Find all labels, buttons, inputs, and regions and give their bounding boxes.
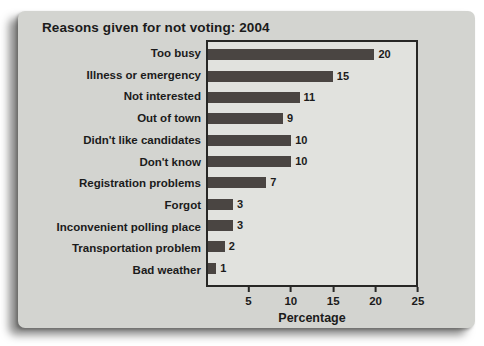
bar-value-label: 7: [270, 177, 276, 188]
bar-value-label: 10: [295, 135, 307, 146]
bar-value-label: 3: [237, 220, 243, 231]
bar-row: 10: [208, 151, 416, 172]
x-axis-title: Percentage: [206, 311, 418, 325]
x-axis-tick: 15: [327, 287, 340, 307]
bar: [208, 241, 225, 252]
bar-value-label: 9: [287, 113, 293, 124]
tick-label: 20: [369, 295, 382, 307]
category-label: Too busy: [18, 42, 201, 64]
category-label: Not interested: [18, 85, 201, 107]
category-labels: Too busyIllness or emergencyNot interest…: [18, 40, 201, 287]
tick-label: 25: [412, 295, 425, 307]
category-label: Don't know: [18, 151, 201, 173]
page-background: Reasons given for not voting: 2004 Too b…: [0, 0, 484, 346]
x-axis-tick: 10: [284, 287, 297, 307]
x-axis-tick: 25: [412, 287, 425, 307]
bar-value-label: 15: [337, 71, 349, 82]
chart-title: Reasons given for not voting: 2004: [42, 20, 270, 35]
category-label: Bad weather: [18, 259, 201, 281]
tick-mark: [332, 287, 334, 292]
tick-mark: [375, 287, 377, 292]
category-label: Out of town: [18, 107, 201, 129]
chart-card: Reasons given for not voting: 2004 Too b…: [18, 11, 475, 328]
bar-value-label: 2: [229, 241, 235, 252]
bar-value-label: 10: [295, 156, 307, 167]
bar-row: 7: [208, 172, 416, 193]
bar-value-label: 11: [304, 92, 316, 103]
bar-value-label: 1: [220, 263, 226, 274]
tick-label: 5: [245, 295, 251, 307]
bar-row: 20: [208, 44, 416, 65]
tick-mark: [417, 287, 419, 292]
bar: [208, 263, 216, 274]
bar-rows: 2015119101073321: [208, 42, 416, 285]
tick-mark: [247, 287, 249, 292]
category-label: Didn't like candidates: [18, 129, 201, 151]
bar: [208, 92, 300, 103]
category-label: Illness or emergency: [18, 64, 201, 86]
bar-row: 3: [208, 215, 416, 236]
bar: [208, 156, 291, 167]
bar-row: 11: [208, 87, 416, 108]
tick-mark: [290, 287, 292, 292]
x-axis-tick: 20: [369, 287, 382, 307]
category-label: Transportation problem: [18, 238, 201, 260]
bar-row: 1: [208, 258, 416, 279]
bar: [208, 71, 333, 82]
category-label: Forgot: [18, 194, 201, 216]
category-label: Registration problems: [18, 172, 201, 194]
bar-row: 15: [208, 65, 416, 86]
bar: [208, 49, 374, 60]
bar-value-label: 20: [378, 49, 390, 60]
bar: [208, 199, 233, 210]
bar-row: 9: [208, 108, 416, 129]
bar: [208, 113, 283, 124]
bar-value-label: 3: [237, 199, 243, 210]
bar-row: 3: [208, 194, 416, 215]
x-axis-tick: 5: [245, 287, 251, 307]
bar: [208, 135, 291, 146]
bar: [208, 220, 233, 231]
tick-label: 10: [284, 295, 297, 307]
category-label: Inconvenient polling place: [18, 216, 201, 238]
tick-label: 15: [327, 295, 340, 307]
bar-row: 2: [208, 236, 416, 257]
bar: [208, 177, 266, 188]
plot-area: 2015119101073321: [206, 40, 418, 287]
bar-row: 10: [208, 129, 416, 150]
